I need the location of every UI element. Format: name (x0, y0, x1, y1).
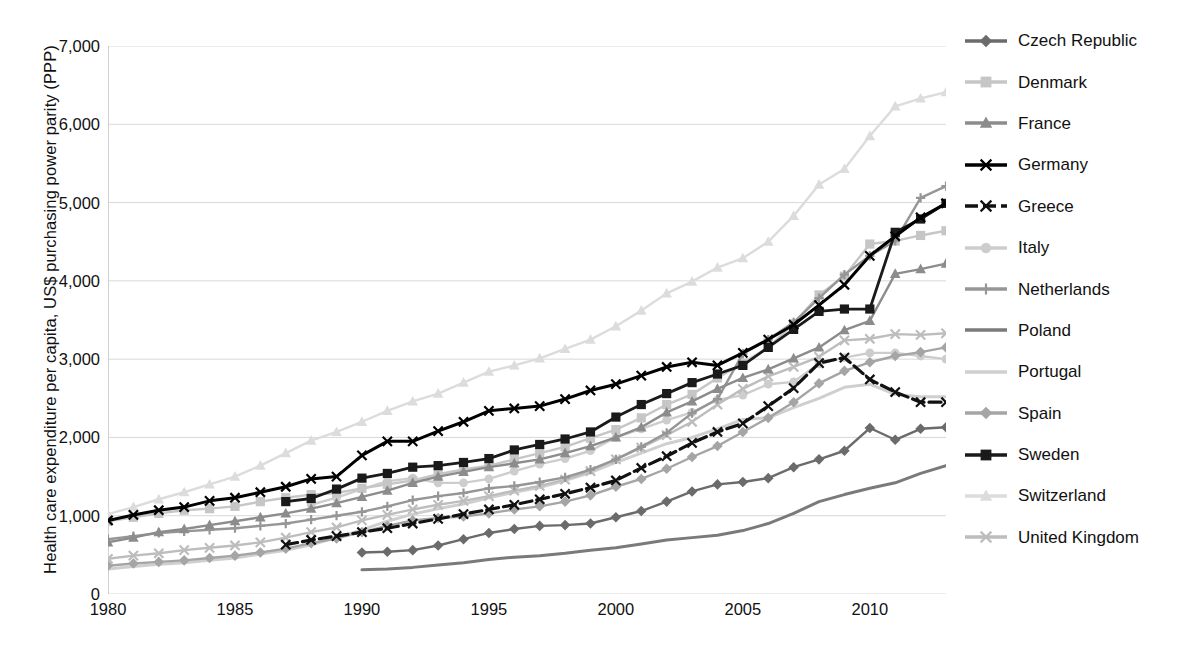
data-point-marker (357, 507, 366, 516)
data-point-marker (814, 342, 825, 352)
marker-diamond (509, 524, 520, 535)
data-point-marker (941, 422, 946, 433)
data-point-marker (738, 361, 747, 370)
legend-item-label: Denmark (1018, 74, 1087, 91)
marker-plus (332, 511, 341, 520)
legend-key-icon (963, 112, 1009, 134)
legend-item-label: Italy (1018, 239, 1049, 256)
marker-square (713, 369, 722, 378)
legend-key-swatch (963, 30, 1009, 52)
legend-key-icon (963, 402, 1009, 424)
data-point-marker (637, 413, 646, 422)
data-point-marker (637, 400, 646, 409)
legend-item-label: United Kingdom (1018, 529, 1139, 546)
data-point-marker (509, 524, 520, 535)
y-axis-tick-labels: 01,0002,0003,0004,0005,0006,0007,000 (28, 46, 100, 594)
marker-square (459, 458, 468, 467)
data-point-marker (357, 474, 366, 483)
marker-square (981, 77, 992, 88)
marker-square (434, 461, 443, 470)
data-point-marker (764, 402, 773, 411)
gridlines (108, 46, 946, 594)
marker-diamond (687, 452, 698, 463)
legend-key-swatch (963, 112, 1009, 134)
marker-square (611, 412, 620, 421)
marker-diamond (407, 545, 418, 556)
y-tick-label: 2,000 (30, 428, 100, 447)
marker-plus (981, 284, 992, 295)
data-point-marker (941, 258, 946, 268)
data-point-marker (788, 462, 799, 473)
marker-diamond (255, 547, 266, 558)
x-tick-label: 2005 (703, 600, 783, 619)
legend-key-swatch (963, 485, 1009, 507)
marker-plus (357, 507, 366, 516)
legend-key-icon (963, 71, 1009, 93)
data-point-marker (865, 239, 874, 248)
data-point-marker (586, 427, 595, 436)
legend-item-denmark[interactable]: Denmark (963, 61, 1179, 102)
legend-item-portugal[interactable]: Portugal (963, 351, 1179, 392)
data-point-marker (611, 512, 622, 523)
data-point-marker (840, 280, 849, 289)
legend-item-netherlands[interactable]: Netherlands (963, 268, 1179, 309)
legend-item-czech-republic[interactable]: Czech Republic (963, 20, 1179, 61)
marker-plus (256, 521, 265, 530)
data-point-marker (458, 534, 469, 545)
data-point-marker (281, 497, 290, 506)
legend-key-icon (963, 195, 1009, 217)
data-point-marker (814, 454, 825, 465)
x-axis-tick-labels: 1980198519901995200020052010 (108, 600, 946, 626)
marker-square (535, 440, 544, 449)
legend-item-label: Switzerland (1018, 487, 1106, 504)
marker-triangle (865, 315, 876, 325)
marker-diamond (712, 441, 723, 452)
marker-square (357, 474, 366, 483)
data-point-marker (713, 369, 722, 378)
marker-diamond (611, 512, 622, 523)
marker-square (307, 494, 316, 503)
x-tick-label: 1990 (322, 600, 402, 619)
data-point-marker (407, 545, 418, 556)
y-tick-label: 6,000 (30, 115, 100, 134)
chart-svg (108, 46, 946, 594)
marker-x (687, 417, 696, 426)
data-point-marker (484, 528, 495, 539)
data-point-marker (981, 449, 992, 460)
legend-item-greece[interactable]: Greece (963, 186, 1179, 227)
marker-diamond (687, 486, 698, 497)
marker-diamond (661, 496, 672, 507)
data-point-marker (840, 304, 849, 313)
legend-item-italy[interactable]: Italy (963, 227, 1179, 268)
data-point-marker (484, 454, 493, 463)
marker-diamond (636, 506, 647, 517)
marker-square (662, 389, 671, 398)
marker-square (687, 378, 696, 387)
data-point-marker (839, 366, 850, 377)
legend-item-poland[interactable]: Poland (963, 310, 1179, 351)
marker-diamond (980, 34, 992, 46)
legend-item-united-kingdom[interactable]: United Kingdom (963, 517, 1179, 558)
marker-circle (942, 355, 946, 364)
marker-circle (510, 467, 519, 476)
data-point-marker (981, 284, 992, 295)
legend-item-spain[interactable]: Spain (963, 393, 1179, 434)
data-point-marker (712, 441, 723, 452)
legend-item-switzerland[interactable]: Switzerland (963, 475, 1179, 516)
data-point-marker (661, 496, 672, 507)
marker-diamond (458, 534, 469, 545)
legend-item-france[interactable]: France (963, 103, 1179, 144)
x-tick-label: 2000 (576, 600, 656, 619)
marker-diamond (788, 462, 799, 473)
marker-square (230, 502, 239, 511)
legend-item-germany[interactable]: Germany (963, 144, 1179, 185)
marker-square (865, 239, 874, 248)
legend-key-swatch (963, 444, 1009, 466)
data-point-marker (459, 478, 468, 487)
legend-item-sweden[interactable]: Sweden (963, 434, 1179, 475)
legend-key-icon (963, 237, 1009, 259)
data-point-marker (814, 179, 825, 189)
data-point-marker (764, 380, 773, 389)
data-point-marker (687, 486, 698, 497)
marker-diamond (763, 413, 774, 424)
